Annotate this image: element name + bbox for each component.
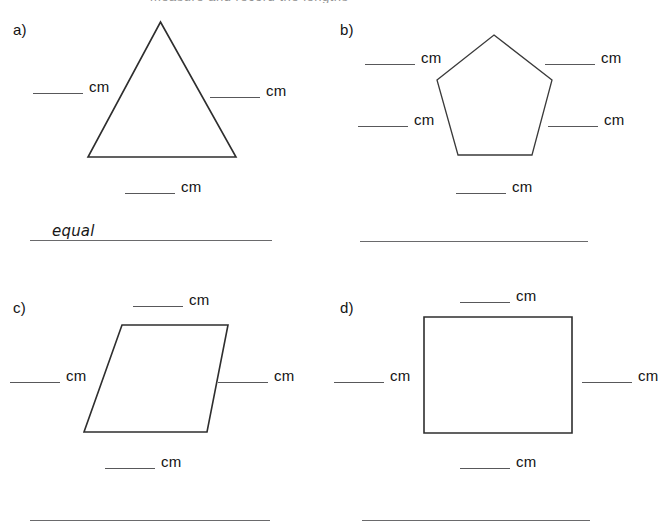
measurement-blank[interactable]: [548, 113, 598, 127]
measurement-unit: cm: [421, 51, 442, 65]
problem-c: c) cm cm cm cm: [0, 265, 333, 530]
measurement-blank[interactable]: [456, 180, 506, 194]
measurement-blank[interactable]: [460, 455, 510, 469]
answer-line-b[interactable]: [360, 226, 588, 242]
measurement-d-top[interactable]: cm: [460, 289, 537, 303]
measurement-unit: cm: [161, 455, 182, 469]
measurement-b-lower-right[interactable]: cm: [548, 113, 625, 127]
problem-d: d) cm cm cm cm: [334, 265, 667, 530]
measurement-unit: cm: [274, 369, 295, 383]
measurement-unit: cm: [604, 113, 625, 127]
measurement-a-bottom[interactable]: cm: [125, 180, 202, 194]
measurement-unit: cm: [266, 84, 287, 98]
measurement-blank[interactable]: [460, 289, 510, 303]
measurement-unit: cm: [512, 180, 533, 194]
measurement-b-upper-left[interactable]: cm: [365, 51, 442, 65]
problem-b: b) cm cm cm cm cm: [334, 0, 667, 265]
measurement-unit: cm: [89, 80, 110, 94]
problem-a: a) cm cm cm equal: [0, 0, 333, 265]
measurement-c-left[interactable]: cm: [10, 369, 87, 383]
measurement-blank[interactable]: [365, 51, 415, 65]
answer-line-c[interactable]: [30, 505, 270, 521]
answer-line-d[interactable]: [362, 505, 590, 521]
measurement-d-right[interactable]: cm: [582, 369, 659, 383]
measurement-b-lower-left[interactable]: cm: [358, 113, 435, 127]
measurement-d-bottom[interactable]: cm: [460, 455, 537, 469]
measurement-blank[interactable]: [334, 369, 384, 383]
measurement-a-right[interactable]: cm: [210, 84, 287, 98]
measurement-unit: cm: [189, 293, 210, 307]
measurement-unit: cm: [66, 369, 87, 383]
measurement-a-left[interactable]: cm: [33, 80, 110, 94]
measurement-blank[interactable]: [210, 84, 260, 98]
measurement-blank[interactable]: [545, 51, 595, 65]
measurement-unit: cm: [414, 113, 435, 127]
measurement-unit: cm: [516, 289, 537, 303]
measurement-blank[interactable]: [133, 293, 183, 307]
measurement-c-bottom[interactable]: cm: [105, 455, 182, 469]
measurement-b-bottom[interactable]: cm: [456, 180, 533, 194]
measurement-blank[interactable]: [10, 369, 60, 383]
measurement-blank[interactable]: [105, 455, 155, 469]
measurement-unit: cm: [516, 455, 537, 469]
measurement-blank[interactable]: [218, 369, 268, 383]
measurement-unit: cm: [181, 180, 202, 194]
answer-text-a: equal: [52, 224, 95, 239]
measurement-b-upper-right[interactable]: cm: [545, 51, 622, 65]
measurement-unit: cm: [390, 369, 411, 383]
measurement-blank[interactable]: [582, 369, 632, 383]
measurement-blank[interactable]: [358, 113, 408, 127]
measurement-unit: cm: [638, 369, 659, 383]
measurement-c-right[interactable]: cm: [218, 369, 295, 383]
measurement-d-left[interactable]: cm: [334, 369, 411, 383]
measurement-unit: cm: [601, 51, 622, 65]
rectangle-shape: [334, 265, 667, 530]
measurement-c-top[interactable]: cm: [133, 293, 210, 307]
measurement-blank[interactable]: [33, 80, 83, 94]
measurement-blank[interactable]: [125, 180, 175, 194]
